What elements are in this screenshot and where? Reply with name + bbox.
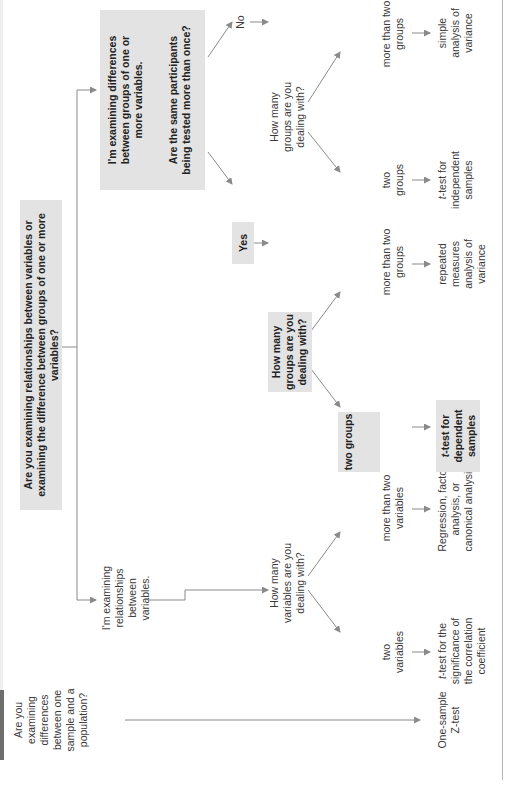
option-yes-two-groups: two groups — [338, 412, 380, 472]
no-groups-question: How many groups are you dealing with? — [268, 77, 307, 157]
root-question-box: Are you examining relationships between … — [20, 200, 62, 510]
yes-box: Yes — [232, 222, 254, 264]
relationships-label: I'm examining relationships between vari… — [100, 556, 152, 640]
differences-label: I'm examining differences between groups… — [106, 10, 145, 190]
no-label: No — [234, 2, 247, 42]
one-sample-z-test: One-sample Z-test — [436, 690, 462, 750]
result-repeated-measures-anova: repeated measures analysis of variance — [436, 231, 488, 297]
side-question: Are you examining differences between on… — [12, 680, 90, 760]
result-simple-anova: simple analysis of variance — [436, 0, 475, 68]
flowchart-canvas: Are you examining relationships between … — [0, 0, 519, 812]
option-no-more-than-two-groups: more than two groups — [380, 0, 406, 72]
result-correlation-t-test: t-test for the significance of the corre… — [436, 610, 488, 692]
option-more-than-two-variables: more than two variables — [380, 468, 406, 548]
option-two-variables: two variables — [380, 624, 406, 680]
option-yes-more-than-two-groups: more than two groups — [380, 224, 406, 300]
variables-question: How many variables are you dealing with? — [268, 541, 307, 625]
same-participants-question: Are the same participants being tested m… — [167, 10, 193, 190]
option-no-two-groups: two groups — [380, 156, 406, 204]
yes-groups-question-box: How many groups are you dealing with? — [268, 312, 312, 392]
differences-box: I'm examining differences between groups… — [100, 10, 205, 190]
result-regression: Regression, factor analysis, or canonica… — [436, 462, 475, 556]
result-t-test-dependent: t-test for dependent samples — [436, 400, 480, 472]
root-question-text: Are you examining relationships between … — [22, 206, 61, 504]
result-t-test-independent: t-test for independent samples — [436, 142, 475, 218]
